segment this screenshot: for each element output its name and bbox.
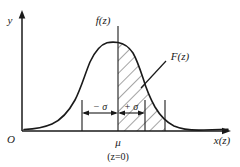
y-axis-arrow-icon [19,10,26,19]
arrow-head-left-icon [82,110,89,115]
y-axis-label: y [7,14,13,26]
density-function-label: f(z) [96,14,111,27]
f-of-z-leader-line [141,61,166,88]
mu-label: μ [114,136,121,148]
plus-sigma-label: + σ [124,101,139,112]
cumulative-function-label: F(z) [170,50,190,63]
minus-sigma-label: − σ [93,101,108,112]
arrow-head-right-icon [111,110,118,115]
z-equals-zero-note: (z=0) [107,151,129,163]
figure-canvas: y O x(z) f(z) F(z) − σ + σ μ (z=0) [0,0,240,167]
origin-label: O [7,133,15,145]
normal-distribution-figure: y O x(z) f(z) F(z) − σ + σ μ (z=0) [0,0,240,167]
x-axis-label: x(z) [213,134,231,147]
